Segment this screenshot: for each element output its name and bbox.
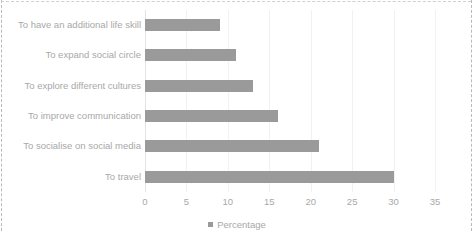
bar-1 xyxy=(145,19,220,31)
legend-label-percentage: Percentage xyxy=(217,219,266,230)
x-tick-0: 0 xyxy=(130,196,160,208)
category-label-5: To socialise on social media xyxy=(0,140,141,151)
x-tick-20: 20 xyxy=(296,196,326,208)
bar-4 xyxy=(145,110,278,122)
x-tick-15: 15 xyxy=(254,196,284,208)
bar-3 xyxy=(145,80,253,92)
bar-6 xyxy=(145,171,394,183)
x-tick-25: 25 xyxy=(337,196,367,208)
x-tick-30: 30 xyxy=(379,196,409,208)
x-tick-5: 5 xyxy=(171,196,201,208)
figure-border-top xyxy=(1,1,471,2)
category-label-2: To expand social circle xyxy=(0,49,141,60)
bar-2 xyxy=(145,49,236,61)
bar-chart: To have an additional life skillTo expan… xyxy=(0,0,474,243)
x-tick-35: 35 xyxy=(420,196,450,208)
category-label-1: To have an additional life skill xyxy=(0,19,141,30)
category-label-6: To travel xyxy=(0,171,141,182)
category-label-4: To improve communication xyxy=(0,110,141,121)
category-label-3: To explore different cultures xyxy=(0,80,141,91)
chart-legend: Percentage xyxy=(0,219,474,230)
x-tick-10: 10 xyxy=(213,196,243,208)
legend-swatch-percentage xyxy=(208,222,213,227)
bar-5 xyxy=(145,140,319,152)
